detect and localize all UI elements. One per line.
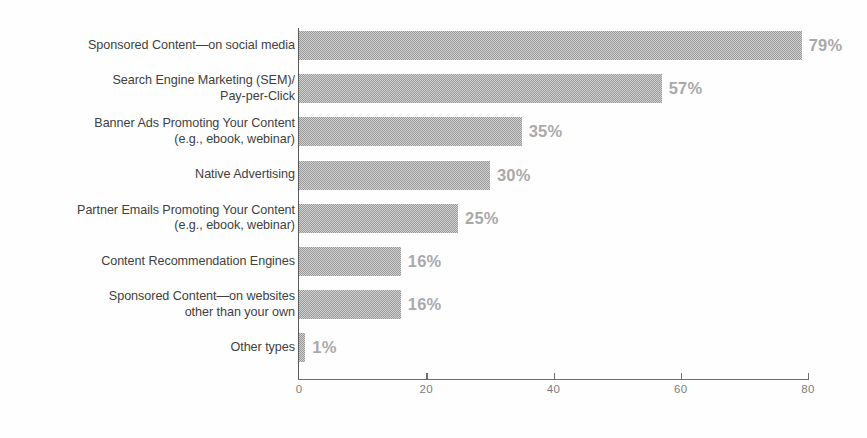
bar-value-label: 79% <box>809 31 843 60</box>
bar <box>299 290 401 319</box>
bar-value-label: 35% <box>529 117 563 146</box>
bar <box>299 333 305 362</box>
x-axis-tick-label: 60 <box>661 383 701 395</box>
bar <box>299 31 802 60</box>
plot-area: Sponsored Content—on social media79%Sear… <box>0 0 867 438</box>
x-axis-tick-label: 80 <box>788 383 828 395</box>
x-axis-tick <box>426 373 427 380</box>
bar <box>299 161 490 190</box>
x-axis-tick-label: 40 <box>534 383 574 395</box>
category-label: Content Recommendation Engines <box>0 254 295 270</box>
bar-value-label: 25% <box>465 204 499 233</box>
category-label: Sponsored Content—on social media <box>0 38 295 54</box>
bar-chart-figure: Sponsored Content—on social media79%Sear… <box>0 0 867 438</box>
y-axis-line <box>298 28 299 379</box>
x-axis-tick-label: 0 <box>279 383 319 395</box>
category-label: Partner Emails Promoting Your Content (e… <box>0 203 295 234</box>
bar <box>299 74 662 103</box>
bar-value-label: 1% <box>312 333 336 362</box>
bar <box>299 117 522 146</box>
bar-value-label: 16% <box>408 247 442 276</box>
bar-value-label: 57% <box>669 74 703 103</box>
bar <box>299 247 401 276</box>
x-axis-tick-label: 20 <box>406 383 446 395</box>
x-axis-tick <box>681 373 682 380</box>
x-axis-tick <box>554 373 555 380</box>
bar-value-label: 30% <box>497 161 531 190</box>
category-label: Search Engine Marketing (SEM)/ Pay-per-C… <box>0 73 295 104</box>
category-label: Sponsored Content—on websites other than… <box>0 289 295 320</box>
bar <box>299 204 458 233</box>
category-label: Other types <box>0 340 295 356</box>
category-label: Native Advertising <box>0 167 295 183</box>
category-label: Banner Ads Promoting Your Content (e.g.,… <box>0 116 295 147</box>
x-axis-tick <box>808 373 809 380</box>
bar-value-label: 16% <box>408 290 442 319</box>
